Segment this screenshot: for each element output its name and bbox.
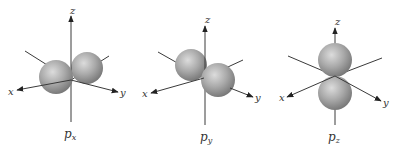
y-axis-label: y [382, 97, 389, 108]
panel-caption: pz [328, 130, 341, 145]
panel-py: z x y py [142, 14, 261, 145]
z-axis-label: z [204, 14, 211, 25]
orbital-lobe-top [318, 43, 352, 77]
x-axis-label: x [279, 92, 285, 103]
p-orbitals-diagram: z x y px z x y py z x y pz [0, 0, 405, 155]
x-axis-label: x [8, 86, 14, 97]
panel-caption: px [64, 127, 77, 142]
orbital-lobe-back [71, 52, 103, 84]
panel-caption: py [200, 130, 213, 145]
orbital-lobe-front [201, 63, 235, 97]
z-axis-label: z [334, 16, 341, 27]
panel-px: z x y px [8, 5, 126, 142]
y-axis-front [230, 88, 253, 97]
x-axis-front [151, 78, 204, 93]
x-axis-label: x [142, 88, 148, 99]
panel-pz: z x y pz [279, 16, 389, 145]
orbital-lobe-front [39, 60, 73, 94]
z-axis-label: z [69, 5, 76, 16]
y-axis-label: y [119, 87, 126, 98]
y-axis-label: y [254, 92, 261, 103]
